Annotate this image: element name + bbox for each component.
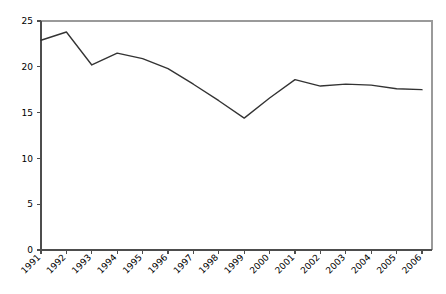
x-tick-label: 2006: [400, 252, 423, 275]
x-tick-label: 2003: [324, 252, 347, 275]
plot-frame: [41, 21, 432, 250]
x-tick-label: 2004: [349, 252, 372, 275]
x-tick-label: 1993: [70, 252, 93, 275]
y-tick-label: 25: [22, 16, 33, 26]
x-tick-label: 1997: [172, 252, 195, 275]
line-chart-figure: 0510152025199119921993199419951996199719…: [0, 0, 446, 294]
x-tick-label: 1998: [197, 252, 220, 275]
y-tick-label: 0: [27, 245, 33, 255]
x-tick-label: 1999: [222, 252, 245, 275]
x-tick-label: 2002: [299, 252, 322, 275]
x-tick-label: 1992: [45, 252, 68, 275]
data-series-line: [41, 32, 422, 118]
x-tick-label: 1994: [95, 252, 118, 275]
x-tick-label: 1995: [121, 252, 144, 275]
x-tick-label: 2000: [248, 252, 271, 275]
x-tick-label: 1996: [146, 252, 169, 275]
chart-canvas: 0510152025199119921993199419951996199719…: [0, 0, 446, 294]
x-tick-label: 2001: [273, 252, 296, 275]
y-tick-label: 5: [27, 199, 33, 209]
x-tick-label: 2005: [375, 252, 398, 275]
y-tick-label: 20: [22, 62, 34, 72]
x-tick-label: 1991: [19, 252, 42, 275]
y-tick-label: 10: [22, 154, 34, 164]
y-tick-label: 15: [22, 108, 33, 118]
